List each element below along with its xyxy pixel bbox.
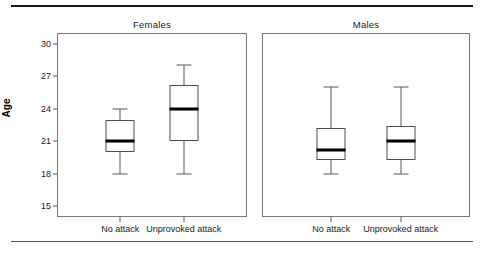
whisker-cap-upper [113, 108, 128, 109]
box-iqr[interactable] [317, 128, 346, 159]
y-axis-label: Age [1, 99, 12, 118]
y-tick-label: 24 [41, 104, 51, 114]
figure-canvas: Age 151821242730 Females No attackUnprov… [0, 0, 483, 255]
x-tick-mark [331, 217, 332, 222]
x-tick-mark [400, 217, 401, 222]
panel-title-females: Females [57, 18, 247, 33]
whisker-cap-upper [324, 87, 339, 88]
median-line [169, 107, 198, 110]
x-axis-category-label: No attack [312, 224, 350, 234]
y-tick-label: 18 [41, 169, 51, 179]
box-iqr[interactable] [386, 126, 415, 160]
y-tick-label: 27 [41, 71, 51, 81]
whisker-lower [400, 160, 401, 174]
y-tick-label: 15 [41, 201, 51, 211]
median-line [106, 140, 135, 143]
plot-frame-females [57, 33, 247, 217]
panel-title-males: Males [262, 18, 470, 33]
top-horizontal-rule [11, 5, 473, 7]
whisker-lower [120, 152, 121, 174]
whisker-lower [331, 160, 332, 174]
plot-frame-males [262, 33, 470, 217]
box-iqr[interactable] [169, 85, 198, 141]
y-tick-label: 30 [41, 39, 51, 49]
box-iqr[interactable] [106, 120, 135, 152]
whisker-upper [120, 109, 121, 120]
bottom-horizontal-rule [11, 241, 473, 242]
whisker-cap-upper [393, 87, 408, 88]
whisker-lower [183, 141, 184, 173]
panel-females: Females No attackUnprovoked attack [57, 18, 247, 218]
whisker-cap-lower [176, 173, 191, 174]
x-axis-category-label: Unprovoked attack [146, 224, 221, 234]
median-line [317, 148, 346, 151]
x-axis-category-label: Unprovoked attack [363, 224, 438, 234]
x-tick-mark [183, 217, 184, 222]
whisker-cap-lower [393, 173, 408, 174]
y-tick-label: 21 [41, 136, 51, 146]
median-line [386, 140, 415, 143]
x-tick-mark [120, 217, 121, 222]
whisker-cap-upper [176, 65, 191, 66]
y-axis: Age 151821242730 [0, 0, 57, 255]
whisker-upper [400, 87, 401, 126]
whisker-upper [331, 87, 332, 128]
x-axis-category-label: No attack [101, 224, 139, 234]
whisker-upper [183, 65, 184, 84]
whisker-cap-lower [324, 173, 339, 174]
whisker-cap-lower [113, 173, 128, 174]
panel-males: Males No attackUnprovoked attack [262, 18, 470, 218]
